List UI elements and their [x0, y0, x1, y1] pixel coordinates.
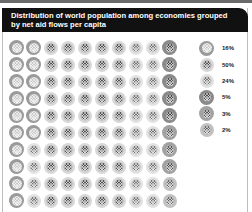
- waffle-cell: [59, 39, 76, 56]
- legend-swatch-icon: [199, 41, 214, 56]
- population-dot-icon: [9, 125, 24, 140]
- population-dot-icon: [44, 58, 58, 72]
- waffle-cell: [144, 107, 161, 124]
- population-dot-icon: [129, 109, 143, 123]
- waffle-cell: [127, 73, 144, 90]
- waffle-cell: [110, 90, 127, 107]
- waffle-cell: [76, 158, 93, 175]
- waffle-cell: [161, 141, 178, 158]
- population-dot-icon: [95, 194, 109, 208]
- waffle-cell: [127, 192, 144, 209]
- population-dot-icon: [146, 92, 160, 106]
- population-dot-icon: [112, 109, 126, 123]
- population-dot-icon: [78, 75, 92, 89]
- waffle-cell: [110, 39, 127, 56]
- waffle-cell: [93, 107, 110, 124]
- population-dot-icon: [61, 58, 75, 72]
- population-dot-icon: [146, 160, 160, 174]
- chart-title: Distribution of world population among e…: [2, 8, 248, 32]
- waffle-cell: [59, 107, 76, 124]
- waffle-cell: [59, 175, 76, 192]
- waffle-cell: [93, 56, 110, 73]
- population-dot-icon: [9, 142, 24, 157]
- legend-label: 16%: [222, 45, 234, 51]
- legend-label: 50%: [222, 62, 234, 68]
- population-dot-icon: [27, 143, 41, 157]
- population-dot-icon: [146, 109, 160, 123]
- population-dot-icon: [162, 142, 177, 157]
- waffle-cell: [127, 124, 144, 141]
- waffle-cell: [110, 56, 127, 73]
- waffle-cell: [127, 56, 144, 73]
- population-dot-icon: [9, 40, 24, 55]
- waffle-cell: [8, 175, 25, 192]
- waffle-cell: [144, 90, 161, 107]
- population-dot-icon: [61, 75, 75, 89]
- waffle-cell: [93, 73, 110, 90]
- population-dot-icon: [162, 108, 177, 123]
- population-dot-icon: [26, 125, 41, 140]
- waffle-cell: [25, 192, 42, 209]
- waffle-cell: [42, 56, 59, 73]
- population-dot-icon: [9, 91, 24, 106]
- waffle-cell: [8, 158, 25, 175]
- population-dot-icon: [112, 58, 126, 72]
- waffle-cell: [93, 90, 110, 107]
- waffle-cell: [42, 39, 59, 56]
- waffle-cell: [93, 158, 110, 175]
- waffle-cell: [8, 56, 25, 73]
- waffle-cell: [8, 107, 25, 124]
- waffle-cell: [110, 124, 127, 141]
- population-dot-icon: [61, 126, 75, 140]
- population-dot-icon: [61, 41, 75, 55]
- waffle-cell: [76, 175, 93, 192]
- waffle-cell: [110, 73, 127, 90]
- population-dot-icon: [26, 74, 41, 89]
- population-dot-icon: [146, 126, 160, 140]
- waffle-cell: [93, 175, 110, 192]
- legend-swatch-icon: [199, 106, 214, 121]
- legend-item: 24%: [198, 73, 234, 89]
- waffle-cell: [76, 107, 93, 124]
- waffle-cell: [144, 73, 161, 90]
- waffle-cell: [110, 141, 127, 158]
- waffle-cell: [127, 175, 144, 192]
- population-dot-icon: [78, 143, 92, 157]
- population-dot-icon: [44, 75, 58, 89]
- legend-item: 50%: [198, 56, 234, 72]
- population-dot-icon: [162, 125, 177, 140]
- population-dot-icon: [27, 194, 41, 208]
- waffle-cell: [110, 192, 127, 209]
- population-dot-icon: [78, 160, 92, 174]
- waffle-cell: [93, 39, 110, 56]
- waffle-cell: [59, 192, 76, 209]
- population-dot-icon: [146, 177, 160, 191]
- population-dot-icon: [44, 92, 58, 106]
- population-dot-icon: [162, 74, 177, 89]
- legend-label: 3%: [222, 111, 231, 117]
- population-dot-icon: [129, 143, 143, 157]
- population-dot-icon: [61, 109, 75, 123]
- population-dot-icon: [95, 143, 109, 157]
- population-dot-icon: [78, 126, 92, 140]
- population-dot-icon: [146, 41, 160, 55]
- population-dot-icon: [44, 109, 58, 123]
- waffle-cell: [110, 175, 127, 192]
- population-dot-icon: [146, 194, 160, 208]
- population-dot-icon: [112, 194, 126, 208]
- waffle-cell: [42, 175, 59, 192]
- population-dot-icon: [129, 58, 143, 72]
- waffle-cell: [93, 141, 110, 158]
- population-dot-icon: [112, 160, 126, 174]
- population-dot-icon: [78, 177, 92, 191]
- waffle-cell: [25, 90, 42, 107]
- population-dot-icon: [78, 194, 92, 208]
- waffle-cell: [161, 107, 178, 124]
- waffle-cell: [8, 39, 25, 56]
- waffle-cell: [127, 39, 144, 56]
- population-dot-icon: [95, 58, 109, 72]
- waffle-cell: [127, 107, 144, 124]
- legend-swatch-icon: [200, 74, 214, 88]
- population-dot-icon: [95, 75, 109, 89]
- population-dot-icon: [95, 92, 109, 106]
